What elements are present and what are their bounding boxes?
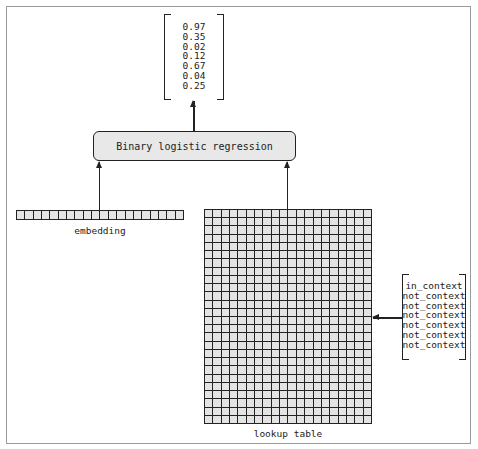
grid-cell (355, 350, 362, 357)
grid-cell (355, 383, 362, 390)
grid-cell (263, 309, 270, 316)
grid-cell (50, 211, 57, 219)
grid-cell (230, 292, 237, 299)
grid-cell (213, 251, 220, 258)
grid-cell (314, 292, 321, 299)
grid-cell (288, 301, 295, 308)
grid-cell (305, 333, 312, 340)
logistic-regression-label: Binary logistic regression (116, 141, 273, 152)
grid-cell (109, 211, 116, 219)
grid-cell (364, 325, 371, 332)
grid-cell (238, 366, 245, 373)
grid-cell (213, 391, 220, 398)
grid-cell (238, 317, 245, 324)
grid-cell (280, 309, 287, 316)
grid-cell (305, 317, 312, 324)
grid-cell (288, 251, 295, 258)
grid-cell (222, 218, 229, 225)
grid-cell (297, 317, 304, 324)
grid-cell (117, 211, 124, 219)
grid-cell (238, 226, 245, 233)
grid-cell (222, 251, 229, 258)
grid-cell (314, 317, 321, 324)
grid-cell (297, 350, 304, 357)
grid-cell (339, 375, 346, 382)
grid-cell (288, 226, 295, 233)
grid-cell (330, 301, 337, 308)
grid-cell (230, 276, 237, 283)
grid-cell (288, 284, 295, 291)
grid-cell (213, 342, 220, 349)
grid-cell (288, 210, 295, 217)
grid-cell (263, 292, 270, 299)
grid-cell (205, 350, 212, 357)
grid-cell (297, 375, 304, 382)
grid-cell (205, 342, 212, 349)
grid-cell (222, 408, 229, 415)
grid-cell (126, 211, 133, 219)
grid-cell (247, 292, 254, 299)
grid-cell (305, 383, 312, 390)
grid-cell (213, 366, 220, 373)
grid-cell (314, 399, 321, 406)
grid-cell (305, 292, 312, 299)
grid-cell (230, 325, 237, 332)
grid-cell (339, 259, 346, 266)
grid-cell (322, 366, 329, 373)
grid-cell (314, 226, 321, 233)
grid-cell (305, 325, 312, 332)
grid-cell (355, 218, 362, 225)
grid-cell (263, 284, 270, 291)
grid-cell (272, 399, 279, 406)
grid-cell (255, 276, 262, 283)
grid-cell (355, 243, 362, 250)
grid-cell (272, 342, 279, 349)
grid-cell (339, 399, 346, 406)
grid-cell (247, 301, 254, 308)
grid-cell (42, 211, 49, 219)
grid-cell (364, 358, 371, 365)
grid-cell (339, 292, 346, 299)
grid-cell (305, 268, 312, 275)
grid-cell (280, 358, 287, 365)
grid-cell (92, 211, 99, 219)
grid-cell (322, 399, 329, 406)
probability-values: 0.97 0.35 0.02 0.12 0.67 0.04 0.25 (164, 22, 224, 91)
grid-cell (238, 375, 245, 382)
grid-cell (238, 284, 245, 291)
grid-cell (297, 210, 304, 217)
grid-cell (255, 391, 262, 398)
grid-cell (25, 211, 32, 219)
grid-cell (280, 301, 287, 308)
grid-cell (314, 259, 321, 266)
grid-cell (322, 391, 329, 398)
grid-cell (230, 210, 237, 217)
grid-cell (247, 366, 254, 373)
grid-cell (255, 342, 262, 349)
grid-cell (297, 284, 304, 291)
grid-cell (247, 218, 254, 225)
grid-cell (280, 218, 287, 225)
grid-cell (364, 226, 371, 233)
grid-cell (263, 276, 270, 283)
grid-cell (288, 416, 295, 423)
grid-cell (280, 350, 287, 357)
grid-cell (355, 375, 362, 382)
grid-cell (305, 235, 312, 242)
grid-cell (322, 350, 329, 357)
grid-cell (347, 333, 354, 340)
grid-cell (280, 342, 287, 349)
grid-cell (288, 333, 295, 340)
grid-cell (280, 375, 287, 382)
grid-cell (322, 226, 329, 233)
grid-cell (280, 317, 287, 324)
grid-cell (230, 268, 237, 275)
grid-cell (255, 317, 262, 324)
grid-cell (238, 408, 245, 415)
grid-cell (238, 276, 245, 283)
grid-cell (230, 383, 237, 390)
embedding-vector (16, 210, 184, 220)
grid-cell (330, 226, 337, 233)
grid-cell (355, 226, 362, 233)
grid-cell (280, 399, 287, 406)
